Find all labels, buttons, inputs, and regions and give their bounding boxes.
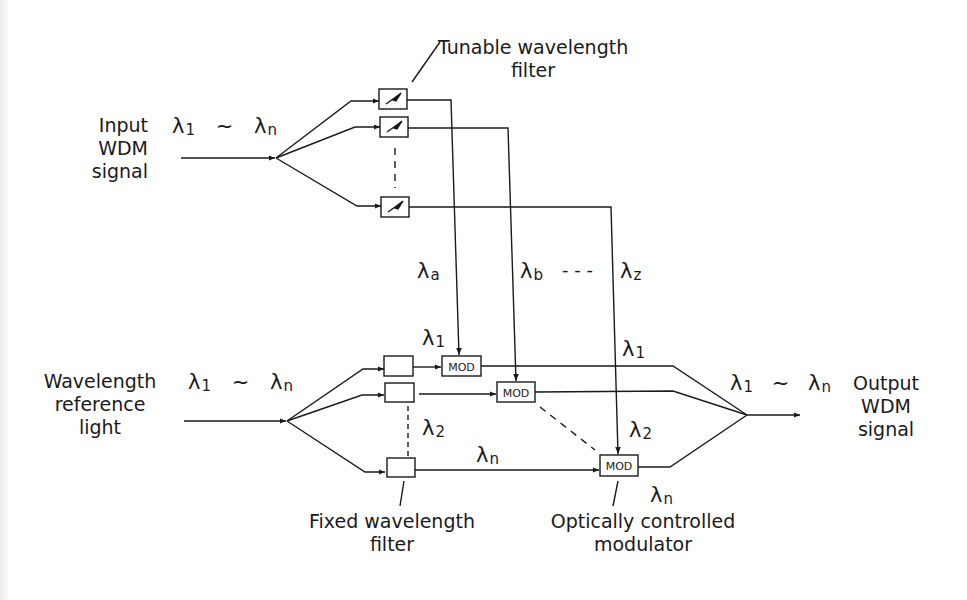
- control-ellipsis: - - -: [562, 259, 593, 280]
- fixed-filter-n: [387, 458, 415, 477]
- modulator-caption: Optically controlled modulator: [528, 510, 758, 556]
- fixed-filter-1: [384, 356, 413, 376]
- output-label-line3: signal: [836, 418, 936, 441]
- modulator-caption-line1: Optically controlled: [528, 510, 758, 533]
- tunable-filter-leader: [412, 42, 440, 82]
- branch-wavelength-2: λ2: [422, 416, 445, 440]
- fixed-filter-caption-line1: Fixed wavelength: [272, 510, 512, 533]
- output-wavelength-range: λ1 ~ λn: [730, 371, 831, 395]
- tunable-filter-caption-line2: filter: [438, 59, 628, 82]
- control-wavelength-z: λz: [620, 259, 641, 283]
- reference-label-line1: Wavelength: [26, 370, 174, 393]
- modulator-2-label: MOD: [503, 387, 530, 400]
- modulator-leader: [613, 481, 618, 506]
- reference-label-line2: reference: [26, 393, 174, 416]
- modulator-ellipsis-dashes: [540, 407, 595, 450]
- fixed-filter-caption: Fixed wavelength filter: [272, 510, 512, 556]
- input-label-line3: signal: [70, 160, 148, 183]
- control-wavelength-b: λb: [520, 259, 543, 283]
- output-branch-wavelength-2: λ2: [629, 418, 652, 442]
- fixed-filter-leader: [400, 481, 404, 506]
- reference-label-line3: light: [26, 416, 174, 439]
- output-label-line1: Output: [836, 372, 936, 395]
- modulator-1-label: MOD: [448, 361, 475, 374]
- fixed-filter-caption-line2: filter: [272, 533, 512, 556]
- branch-wavelength-1: λ1: [422, 326, 445, 350]
- tunable-filter-n: [381, 197, 409, 217]
- modulator-caption-line2: modulator: [528, 533, 758, 556]
- tunable-filter-caption: Tunable wavelength filter: [438, 36, 628, 82]
- branch-wavelength-n: λn: [476, 443, 499, 467]
- fixed-filter-2: [385, 383, 414, 402]
- output-label: Output WDM signal: [836, 372, 936, 441]
- control-wavelength-a: λa: [417, 259, 440, 283]
- tunable-filter-1: [379, 89, 407, 109]
- output-branch-wavelength-n: λn: [650, 483, 673, 507]
- input-wavelength-range: λ1 ~ λn: [172, 114, 277, 138]
- output-label-line2: WDM: [836, 395, 936, 418]
- reference-wavelength-range: λ1 ~ λn: [188, 370, 293, 394]
- output-branch-wavelength-1: λ1: [622, 337, 645, 361]
- tunable-filter-2: [380, 117, 408, 137]
- control-path-a: [407, 100, 459, 355]
- input-label: Input WDM signal: [70, 114, 148, 183]
- tunable-filter-caption-line1: Tunable wavelength: [438, 36, 628, 59]
- modulator-n-label: MOD: [606, 460, 633, 473]
- input-label-line1: Input: [70, 114, 148, 137]
- reference-label: Wavelength reference light: [26, 370, 174, 439]
- input-label-line2: WDM: [70, 137, 148, 160]
